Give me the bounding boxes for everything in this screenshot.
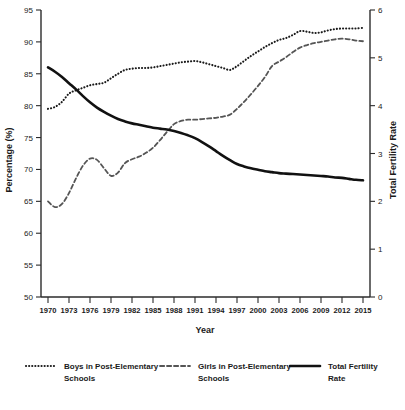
x-tick-label: 1991	[187, 306, 205, 315]
y-tick-label: 90	[24, 38, 33, 47]
y2-tick-label: 1	[378, 245, 383, 254]
y-tick-label: 60	[24, 229, 33, 238]
x-tick-label: 2006	[292, 306, 309, 315]
y-tick-label: 75	[24, 134, 33, 143]
legend-label-0-line2: Schools	[64, 374, 96, 383]
y-tick-label: 50	[24, 293, 33, 302]
y2-tick-label: 6	[378, 6, 383, 15]
y2-tick-label: 0	[378, 293, 383, 302]
x-tick-label: 1970	[40, 306, 57, 315]
x-tick-label: 2015	[355, 306, 373, 315]
legend-label-1: Girls in Post-Elementary	[198, 362, 291, 371]
x-axis-title: Year	[195, 325, 215, 335]
series-line-0	[48, 28, 363, 109]
chart-legend: Boys in Post-ElementarySchoolsGirls in P…	[26, 362, 378, 383]
y-tick-label: 65	[24, 197, 33, 206]
legend-label-1-line2: Schools	[198, 374, 230, 383]
y-tick-label: 80	[24, 102, 33, 111]
x-tick-label: 2000	[250, 306, 267, 315]
line-chart: 50556065707580859095 0123456 19701973197…	[0, 0, 405, 410]
y2-axis-title: Total Fertility Rate	[388, 121, 398, 199]
legend-label-2: Total Fertility	[328, 362, 378, 371]
y2-tick-label: 4	[378, 102, 383, 111]
x-tick-label: 1997	[229, 306, 246, 315]
chart-figure: 50556065707580859095 0123456 19701973197…	[0, 0, 405, 410]
y-axis-title: Percentage (%)	[4, 127, 14, 192]
x-tick-label: 1985	[145, 306, 163, 315]
x-axis-ticks: 1970197319761979198219851988199119941997…	[40, 297, 373, 315]
y2-tick-label: 3	[378, 150, 383, 159]
x-tick-label: 1994	[208, 306, 226, 315]
x-tick-label: 2012	[334, 306, 351, 315]
y-tick-label: 95	[24, 6, 33, 15]
x-tick-label: 1976	[82, 306, 99, 315]
right-axis-ticks: 0123456	[370, 6, 383, 302]
y2-tick-label: 5	[378, 54, 383, 63]
left-axis-ticks: 50556065707580859095	[24, 6, 41, 302]
legend-label-2-line2: Rate	[328, 374, 346, 383]
x-tick-label: 1979	[103, 306, 120, 315]
y2-tick-label: 2	[378, 197, 383, 206]
x-tick-label: 1988	[166, 306, 183, 315]
y-tick-label: 85	[24, 70, 33, 79]
x-tick-label: 1973	[61, 306, 78, 315]
x-tick-label: 1982	[124, 306, 141, 315]
legend-label-0: Boys in Post-Elementary	[64, 362, 159, 371]
x-tick-label: 2003	[271, 306, 288, 315]
series-group	[48, 28, 363, 207]
y-tick-label: 70	[24, 165, 33, 174]
y-tick-label: 55	[24, 261, 33, 270]
x-tick-label: 2009	[313, 306, 330, 315]
